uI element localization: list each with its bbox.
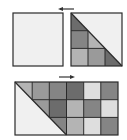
arrow-left-icon [58, 7, 74, 11]
arrow-right-icon [59, 75, 75, 79]
blank-square [13, 13, 63, 66]
puzzle-diagram [0, 0, 127, 140]
rearranged-rectangle [15, 82, 118, 135]
divided-square [71, 13, 122, 66]
